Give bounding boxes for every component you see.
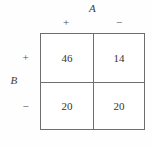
column-header-plus: + (40, 16, 92, 29)
cell-minus-plus: 14 (93, 34, 144, 82)
cell-plus-minus: 20 (41, 82, 93, 129)
row-variable-label: B (6, 74, 22, 86)
column-variable-label: A (40, 2, 145, 14)
column-header-minus: − (93, 16, 145, 29)
row-header-minus: − (17, 100, 34, 113)
contingency-table-figure: A + − B + − 46 14 20 20 (0, 0, 153, 146)
cell-plus-plus: 46 (41, 34, 93, 82)
row-header-plus: + (17, 51, 34, 64)
cell-minus-minus: 20 (93, 82, 144, 129)
matrix-grid: 46 14 20 20 (40, 33, 145, 130)
